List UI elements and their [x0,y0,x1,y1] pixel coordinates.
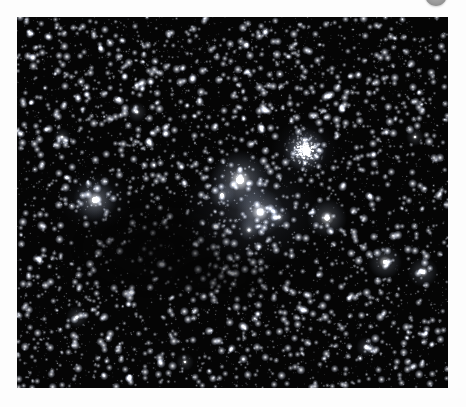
avatar-badge[interactable] [425,0,447,6]
sky-image-viewer[interactable] [17,17,448,388]
starfield-canvas [17,17,448,388]
